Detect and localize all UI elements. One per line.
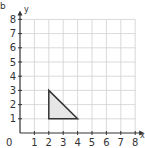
y-axis-label: y: [24, 5, 29, 14]
origin-label: 0: [6, 137, 12, 148]
x-axis-label: x: [140, 131, 145, 140]
tick-labels: 1234567812345678: [10, 14, 139, 148]
x-tick-label: 6: [103, 137, 109, 148]
y-tick-label: 7: [10, 28, 16, 39]
x-tick-label: 4: [74, 137, 80, 148]
grid-lines: [20, 19, 135, 133]
coordinate-grid: 1234567812345678 b y x 0: [0, 0, 145, 148]
corner-mark: b: [0, 1, 6, 11]
y-tick-label: 1: [10, 113, 16, 124]
y-tick-label: 8: [10, 14, 16, 25]
x-tick-label: 5: [89, 137, 95, 148]
x-tick-label: 7: [118, 137, 124, 148]
x-tick-label: 3: [60, 137, 66, 148]
x-tick-label: 2: [46, 137, 52, 148]
y-tick-label: 6: [10, 42, 16, 53]
axes: [18, 10, 145, 135]
y-tick-label: 3: [10, 85, 16, 96]
y-tick-label: 4: [10, 71, 16, 82]
x-tick-label: 8: [132, 137, 138, 148]
y-tick-label: 2: [10, 99, 16, 110]
x-tick-label: 1: [31, 137, 37, 148]
y-arrow-icon: [18, 10, 23, 15]
y-tick-label: 5: [10, 57, 16, 68]
